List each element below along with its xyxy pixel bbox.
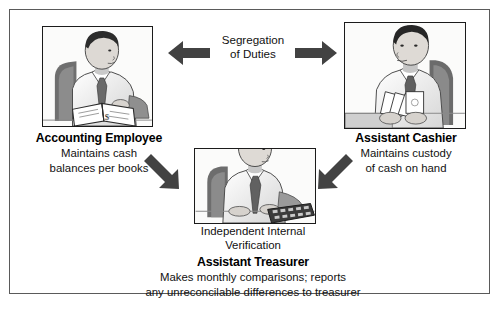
segregation-of-duties-diagram: $ Accounting Employee Maintains cash bal… bbox=[0, 0, 504, 322]
verification-line-1: Independent Internal bbox=[92, 224, 414, 238]
arrow-down-left-icon bbox=[316, 149, 358, 191]
role-label-assistant-cashier: Assistant Cashier bbox=[322, 131, 490, 146]
person-using-calculator-icon bbox=[194, 148, 316, 224]
segregation-line-2: of Duties bbox=[213, 47, 293, 61]
caption-assistant-treasurer: Independent Internal Verification Assist… bbox=[92, 224, 414, 299]
arrow-left-icon bbox=[168, 40, 210, 66]
verification-line-2: Verification bbox=[92, 238, 414, 252]
duty-line-2-assistant-treasurer: any unreconcilable differences to treasu… bbox=[92, 285, 414, 299]
person-reading-ledger-icon: $ bbox=[42, 26, 153, 127]
segregation-line-1: Segregation bbox=[213, 33, 293, 47]
person-holding-cash-icon bbox=[344, 22, 466, 129]
svg-text:$: $ bbox=[105, 112, 110, 122]
arrow-down-right-icon bbox=[139, 149, 181, 191]
duty-line-1-assistant-treasurer: Makes monthly comparisons; reports bbox=[92, 270, 414, 284]
role-label-assistant-treasurer: Assistant Treasurer bbox=[92, 255, 414, 270]
arrow-right-icon bbox=[295, 40, 337, 66]
segregation-of-duties-label: Segregation of Duties bbox=[213, 33, 293, 61]
role-label-accounting-employee: Accounting Employee bbox=[8, 131, 190, 146]
